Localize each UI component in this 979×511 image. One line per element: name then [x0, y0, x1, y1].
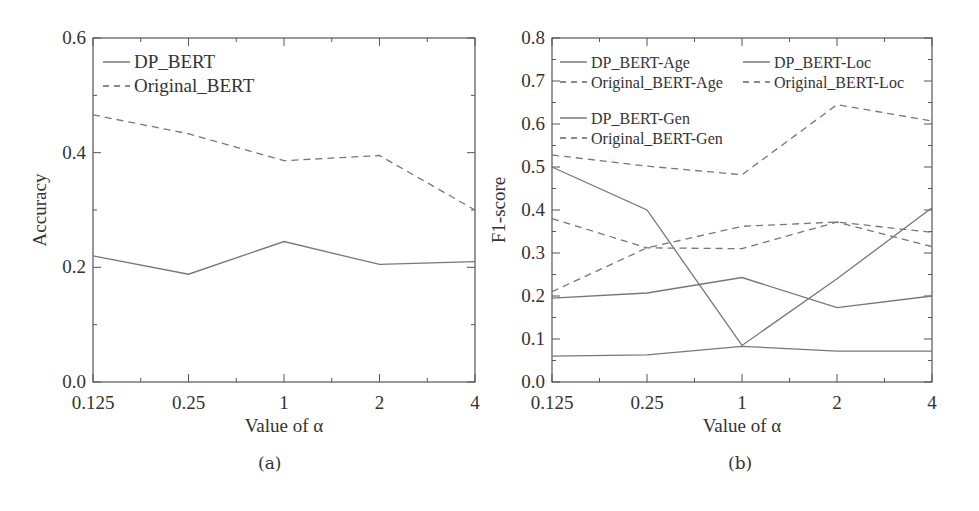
- x-tick-label: 4: [470, 392, 480, 413]
- y-axis-label: F1-score: [488, 177, 509, 243]
- x-axis-label: Value of α: [245, 415, 324, 436]
- y-tick-label: 0.4: [62, 142, 86, 163]
- series-line: [552, 222, 932, 292]
- y-tick-label: 0.2: [521, 285, 545, 306]
- legend-item: Original_BERT-Age: [560, 74, 723, 92]
- legend-item: DP_BERT-Gen: [560, 110, 690, 127]
- legend-item: Original_BERT-Loc: [743, 74, 904, 92]
- svg-text:Original_BERT-Loc: Original_BERT-Loc: [774, 74, 904, 92]
- x-tick-label: 4: [927, 392, 937, 413]
- legend-item: DP_BERT-Age: [560, 54, 690, 72]
- series-line: [552, 167, 932, 345]
- series-line: [552, 346, 932, 356]
- y-tick-label: 0.0: [521, 371, 545, 392]
- y-tick-label: 0.6: [521, 113, 545, 134]
- x-tick-label: 1: [279, 392, 289, 413]
- x-tick-label: 2: [375, 392, 385, 413]
- x-tick-label: 0.125: [72, 392, 115, 413]
- legend-item: DP_BERT-Loc: [743, 54, 871, 71]
- series-line: [93, 115, 475, 210]
- y-tick-label: 0.5: [521, 156, 545, 177]
- y-axis-label: Accuracy: [29, 173, 50, 246]
- legend-item: Original_BERT: [103, 75, 255, 96]
- y-tick-label: 0.8: [521, 27, 545, 48]
- chart-b: 0.1250.251240.00.10.20.30.40.50.60.70.8V…: [488, 27, 937, 436]
- x-tick-label: 0.25: [630, 392, 663, 413]
- svg-text:Original_BERT-Age: Original_BERT-Age: [591, 74, 723, 92]
- series-line: [552, 278, 932, 308]
- y-tick-label: 0.3: [521, 242, 545, 263]
- caption-b: (b): [728, 453, 752, 473]
- series-line: [93, 242, 475, 275]
- x-tick-label: 0.25: [172, 392, 205, 413]
- x-axis-label: Value of α: [703, 415, 782, 436]
- svg-text:Original_BERT-Gen: Original_BERT-Gen: [591, 130, 723, 148]
- chart-a: 0.1250.251240.00.20.40.6Value of αAccura…: [29, 27, 480, 436]
- svg-text:DP_BERT-Loc: DP_BERT-Loc: [774, 54, 871, 71]
- figure-canvas: 0.1250.251240.00.20.40.6Value of αAccura…: [0, 0, 979, 511]
- svg-text:DP_BERT-Gen: DP_BERT-Gen: [591, 110, 690, 127]
- y-tick-label: 0.1: [521, 328, 545, 349]
- legend-item: DP_BERT: [103, 51, 216, 72]
- y-tick-label: 0.4: [521, 199, 545, 220]
- x-tick-label: 1: [737, 392, 747, 413]
- y-tick-label: 0.2: [62, 256, 86, 277]
- x-tick-label: 2: [832, 392, 842, 413]
- series-line: [552, 219, 932, 249]
- y-tick-label: 0.6: [62, 27, 86, 48]
- legend-item: Original_BERT-Gen: [560, 130, 723, 148]
- svg-text:DP_BERT-Age: DP_BERT-Age: [591, 54, 690, 72]
- svg-text:Original_BERT: Original_BERT: [134, 75, 255, 96]
- caption-a: (a): [258, 453, 281, 473]
- x-tick-label: 0.125: [531, 392, 574, 413]
- y-tick-label: 0.7: [521, 70, 545, 91]
- y-tick-label: 0.0: [62, 371, 86, 392]
- svg-text:DP_BERT: DP_BERT: [134, 51, 216, 72]
